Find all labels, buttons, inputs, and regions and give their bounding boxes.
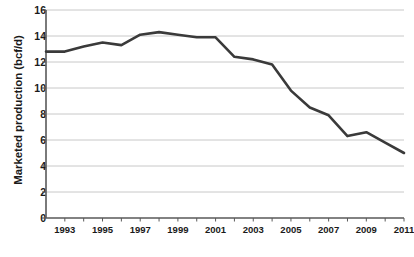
data-line-series-1: [46, 32, 404, 153]
x-tick-label: 1995: [92, 224, 113, 235]
gridlines: [46, 10, 404, 218]
x-tick-label: 2001: [205, 224, 226, 235]
x-tick-label: 1997: [130, 224, 151, 235]
x-tick-label: 1999: [167, 224, 188, 235]
x-tick-label: 2011: [394, 224, 414, 235]
x-tick-label: 2007: [318, 224, 339, 235]
x-tick-label: 2009: [356, 224, 377, 235]
x-tick-label: 2003: [243, 224, 264, 235]
x-tick-label: 1993: [54, 224, 75, 235]
x-tick-label: 2005: [280, 224, 301, 235]
